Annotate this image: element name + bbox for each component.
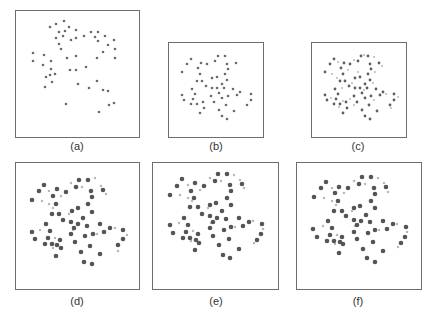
data-point xyxy=(311,227,316,232)
data-point xyxy=(113,102,116,105)
faint-point xyxy=(349,98,351,100)
data-point xyxy=(391,222,396,227)
scatter-plot xyxy=(16,163,139,289)
data-point xyxy=(116,243,121,248)
panel-caption-e: (e) xyxy=(196,295,236,307)
data-point xyxy=(98,111,101,114)
data-point xyxy=(329,63,332,66)
data-point xyxy=(361,109,364,112)
data-point xyxy=(393,99,396,102)
data-point xyxy=(196,232,201,237)
data-point xyxy=(193,181,198,186)
faint-point xyxy=(336,77,338,79)
data-point xyxy=(108,104,111,107)
data-point xyxy=(197,67,200,70)
data-point xyxy=(61,218,66,223)
data-point xyxy=(228,183,233,188)
data-point xyxy=(237,216,242,221)
faint-point xyxy=(48,190,51,193)
scatter-plot xyxy=(169,43,263,137)
faint-point xyxy=(378,229,381,232)
data-point xyxy=(208,226,213,231)
faint-point xyxy=(383,182,386,185)
data-point xyxy=(202,101,205,104)
data-point xyxy=(341,242,346,247)
data-point xyxy=(175,184,180,189)
data-point xyxy=(32,60,35,63)
data-point xyxy=(216,76,219,79)
data-point xyxy=(369,63,372,66)
data-point xyxy=(75,69,78,72)
data-point xyxy=(46,236,51,241)
data-point xyxy=(55,187,60,192)
data-point xyxy=(184,230,189,235)
data-point xyxy=(90,195,95,200)
data-point xyxy=(229,189,234,194)
data-point xyxy=(73,240,78,245)
faint-point xyxy=(351,82,353,84)
faint-point xyxy=(187,197,190,200)
faint-point xyxy=(52,247,55,250)
data-point xyxy=(334,88,337,91)
faint-point xyxy=(191,200,194,203)
data-point xyxy=(250,93,253,96)
data-point xyxy=(228,256,233,261)
faint-point xyxy=(105,193,108,196)
data-point xyxy=(340,67,343,70)
data-point xyxy=(246,104,249,107)
data-point xyxy=(348,85,351,88)
data-point xyxy=(240,182,245,187)
data-point xyxy=(370,95,373,98)
data-point xyxy=(59,246,64,251)
faint-point xyxy=(373,99,375,101)
data-point xyxy=(353,95,356,98)
scatter-panel-c xyxy=(311,42,407,138)
data-point xyxy=(403,235,408,240)
data-point xyxy=(354,87,357,90)
data-point xyxy=(62,35,65,38)
faint-point xyxy=(353,180,356,183)
data-point xyxy=(96,57,99,60)
data-point xyxy=(319,186,324,191)
faint-point xyxy=(41,200,44,203)
data-point xyxy=(352,206,357,211)
panel-caption-a: (a) xyxy=(57,140,97,152)
data-point xyxy=(57,212,62,217)
data-point xyxy=(97,31,100,34)
data-point xyxy=(355,237,360,242)
faint-point xyxy=(192,230,195,233)
data-point xyxy=(221,83,224,86)
data-point xyxy=(211,77,214,80)
data-point xyxy=(220,209,225,214)
panel-caption-b: (b) xyxy=(196,140,236,152)
data-point xyxy=(63,20,66,23)
data-point xyxy=(90,210,95,215)
data-point xyxy=(373,206,378,211)
data-point xyxy=(181,236,186,241)
data-point xyxy=(199,73,202,76)
data-point xyxy=(98,222,103,227)
scatter-panel-e xyxy=(152,162,279,290)
data-point xyxy=(336,199,341,204)
data-point xyxy=(346,107,349,110)
data-point xyxy=(373,228,378,233)
data-point xyxy=(205,85,208,88)
data-point xyxy=(352,230,357,235)
data-point xyxy=(364,83,367,86)
faint-point xyxy=(220,180,223,183)
faint-point xyxy=(199,189,202,192)
data-point xyxy=(215,216,220,221)
faint-point xyxy=(179,194,182,197)
data-point xyxy=(221,253,226,258)
data-point xyxy=(54,254,59,259)
faint-point xyxy=(81,186,84,189)
data-point xyxy=(82,260,87,265)
data-point xyxy=(359,219,364,224)
data-point xyxy=(191,88,194,91)
data-point xyxy=(404,225,409,230)
data-point xyxy=(239,91,242,94)
data-point xyxy=(94,36,97,39)
data-point xyxy=(217,55,220,58)
data-point xyxy=(203,107,206,110)
data-point xyxy=(58,43,61,46)
